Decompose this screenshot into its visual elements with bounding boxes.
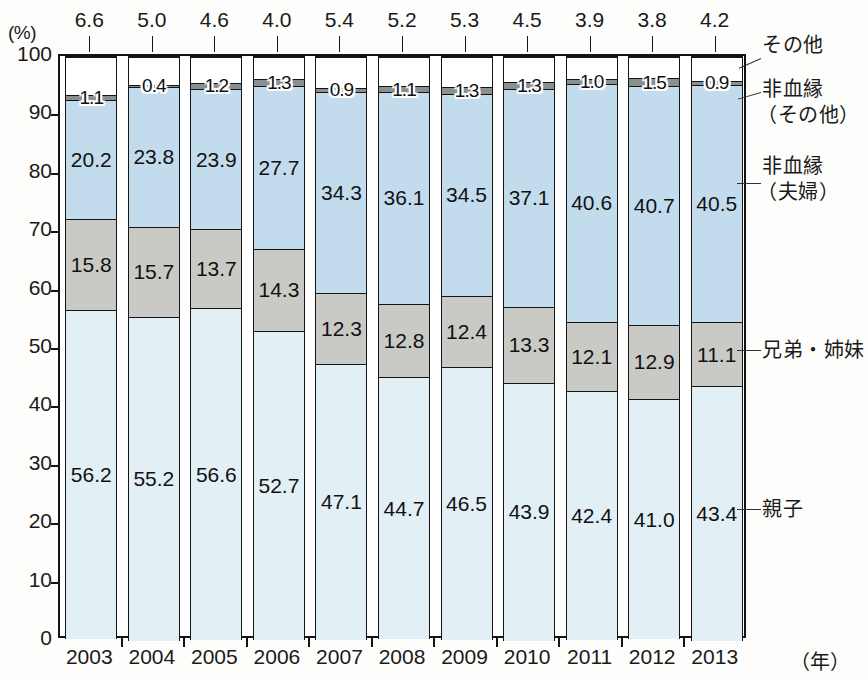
segment-nonkin_couple[interactable]: 34.3 — [315, 93, 367, 293]
segment-nonkin_couple[interactable]: 34.5 — [441, 95, 493, 296]
y-axis-tick-label: 70 — [4, 217, 52, 241]
segment-sibling[interactable]: 12.1 — [566, 322, 618, 393]
y-axis-tick — [51, 290, 60, 292]
x-axis-unit-label: （年） — [790, 646, 850, 675]
segment-sibling[interactable]: 15.8 — [65, 219, 117, 311]
segment-value: 1.3 — [517, 75, 540, 97]
total-label-stem — [89, 36, 90, 52]
segment-nonkin_other[interactable]: 1.2 — [190, 83, 242, 90]
bar-2008[interactable]: 1.136.112.844.7 — [378, 56, 430, 636]
segment-value: 15.7 — [133, 260, 174, 284]
segment-value: 34.5 — [446, 183, 487, 207]
bar-2012[interactable]: 1.540.712.941.0 — [628, 56, 680, 636]
total-label-stem — [339, 36, 340, 52]
y-axis-tick — [51, 173, 60, 175]
segment-parent[interactable]: 43.4 — [691, 387, 743, 640]
segment-nonkin_other[interactable]: 1.5 — [628, 78, 680, 87]
x-axis-tick — [558, 638, 560, 647]
segment-sibling[interactable]: 14.3 — [253, 249, 305, 333]
segment-value: 1.1 — [392, 79, 415, 101]
segment-value: 15.8 — [71, 253, 112, 277]
x-axis-tick-label: 2006 — [242, 645, 312, 669]
segment-parent[interactable]: 46.5 — [441, 368, 493, 640]
segment-value: 56.6 — [196, 463, 237, 487]
segment-nonkin_couple[interactable]: 36.1 — [378, 93, 430, 304]
segment-nonkin_couple[interactable]: 23.9 — [190, 90, 242, 230]
segment-sibling[interactable]: 12.9 — [628, 325, 680, 400]
segment-nonkin_other[interactable]: 1.3 — [441, 87, 493, 95]
segment-value: 52.7 — [258, 474, 299, 498]
y-axis-tick-label: 10 — [4, 568, 52, 592]
segment-nonkin_other[interactable]: 1.3 — [253, 79, 305, 87]
segment-value: 20.2 — [71, 148, 112, 172]
y-axis-tick — [51, 231, 60, 233]
segment-value: 47.1 — [321, 490, 362, 514]
segment-parent[interactable]: 55.2 — [128, 318, 180, 640]
segment-nonkin_couple[interactable]: 37.1 — [503, 90, 555, 307]
segment-nonkin_couple[interactable]: 40.5 — [691, 86, 743, 323]
leader-sibling — [737, 350, 761, 351]
x-axis-tick — [433, 638, 435, 647]
leader-parent — [737, 509, 761, 510]
bar-2013[interactable]: 0.940.511.143.4 — [691, 56, 743, 636]
total-label-2008: 5.2 — [370, 8, 434, 32]
segment-value: 1.3 — [455, 80, 478, 102]
segment-sibling[interactable]: 12.4 — [441, 296, 493, 368]
bar-2009[interactable]: 1.334.512.446.5 — [441, 56, 493, 636]
y-axis-tick — [51, 348, 60, 350]
y-axis-tick-label: 30 — [4, 451, 52, 475]
segment-parent[interactable]: 43.9 — [503, 384, 555, 640]
bar-2011[interactable]: 1.040.612.142.4 — [566, 56, 618, 636]
segment-nonkin_couple[interactable]: 40.6 — [566, 85, 618, 322]
segment-sibling[interactable]: 12.8 — [378, 304, 430, 379]
segment-value: 40.7 — [634, 194, 675, 218]
segment-value: 43.4 — [696, 502, 737, 526]
segment-parent[interactable]: 56.6 — [190, 309, 242, 640]
segment-value: 37.1 — [509, 186, 550, 210]
y-axis-tick — [51, 114, 60, 116]
y-axis-tick-label: 100 — [4, 42, 52, 66]
bar-2004[interactable]: 0.423.815.755.2 — [128, 56, 180, 636]
bar-2005[interactable]: 1.223.913.756.6 — [190, 56, 242, 636]
bar-2006[interactable]: 1.327.714.352.7 — [253, 56, 305, 636]
bar-2007[interactable]: 0.934.312.347.1 — [315, 56, 367, 636]
segment-value: 27.7 — [258, 156, 299, 180]
segment-parent[interactable]: 44.7 — [378, 378, 430, 639]
total-label-stem — [527, 36, 528, 52]
segment-parent[interactable]: 41.0 — [628, 400, 680, 639]
x-axis-tick — [246, 638, 248, 647]
segment-sibling[interactable]: 13.3 — [503, 307, 555, 385]
y-axis-tick-label: 20 — [4, 509, 52, 533]
segment-value: 0.9 — [330, 79, 353, 101]
series-label-nonkin-couple-line2: （夫婦） — [757, 181, 839, 203]
segment-sibling[interactable]: 15.7 — [128, 227, 180, 319]
total-label-2006: 4.0 — [245, 8, 309, 32]
segment-parent[interactable]: 47.1 — [315, 365, 367, 640]
segment-sibling[interactable]: 12.3 — [315, 293, 367, 365]
segment-value: 34.3 — [321, 181, 362, 205]
segment-parent[interactable]: 56.2 — [65, 311, 117, 639]
segment-value: 23.9 — [196, 148, 237, 172]
segment-value: 1.5 — [642, 72, 665, 94]
segment-sibling[interactable]: 13.7 — [190, 229, 242, 309]
y-axis-tick-label: 60 — [4, 276, 52, 300]
bar-2003[interactable]: 1.120.215.856.2 — [65, 56, 117, 636]
segment-nonkin_couple[interactable]: 27.7 — [253, 87, 305, 249]
x-axis-tick-label: 2009 — [430, 645, 500, 669]
segment-sibling[interactable]: 11.1 — [691, 322, 743, 387]
series-label-sibling: 兄弟・姉妹 — [762, 339, 865, 361]
bar-2010[interactable]: 1.337.113.343.9 — [503, 56, 555, 636]
segment-parent[interactable]: 52.7 — [253, 332, 305, 640]
segment-nonkin_couple[interactable]: 40.7 — [628, 87, 680, 325]
x-axis-tick — [121, 638, 123, 647]
segment-nonkin_couple[interactable]: 20.2 — [65, 101, 117, 219]
total-label-2005: 4.6 — [182, 8, 246, 32]
segment-value: 12.1 — [571, 345, 612, 369]
total-label-2011: 3.9 — [558, 8, 622, 32]
segment-nonkin_couple[interactable]: 23.8 — [128, 88, 180, 227]
segment-parent[interactable]: 42.4 — [566, 392, 618, 640]
segment-value: 40.6 — [571, 191, 612, 215]
segment-value: 13.3 — [509, 333, 550, 357]
segment-nonkin_other[interactable]: 1.3 — [503, 82, 555, 90]
segment-value: 1.3 — [267, 72, 290, 94]
